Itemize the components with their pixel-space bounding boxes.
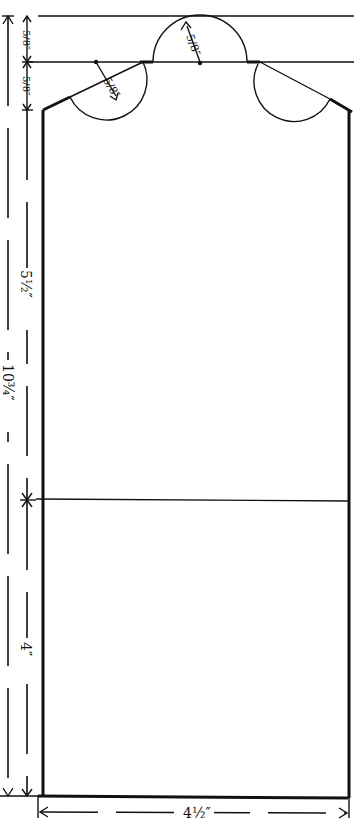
center-arc <box>153 15 247 62</box>
pattern-diagram: 5/8″ 5/8″ 5/8″ 5/8″ 5½″ 4″ 10¾″ 4½″ <box>0 0 354 825</box>
dim-width-arrow-right-icon <box>339 808 347 818</box>
bottom-edge <box>38 796 348 798</box>
center-radius-arrow-icon <box>181 22 191 30</box>
right-shoulder <box>330 99 352 112</box>
dim-lower-body-label: 4″ <box>18 642 34 656</box>
dim-total-label: 10¾″ <box>0 364 16 401</box>
center-point <box>198 61 202 65</box>
dim-upper-body-label: 5½″ <box>18 270 34 298</box>
left-shoulder <box>43 97 70 110</box>
dim-top2-label: 5/8″ <box>21 76 32 96</box>
center-radius-label: 5/8″ <box>183 33 203 58</box>
dim-total-arrow-down-icon <box>3 788 13 796</box>
dim-width-label: 4½″ <box>183 805 211 821</box>
dim-top1-label: 5/8″ <box>21 30 32 50</box>
fold-line-middle <box>36 499 349 501</box>
left-radius-label: 5/8″ <box>100 75 122 100</box>
right-shoulder-thin <box>260 62 330 99</box>
